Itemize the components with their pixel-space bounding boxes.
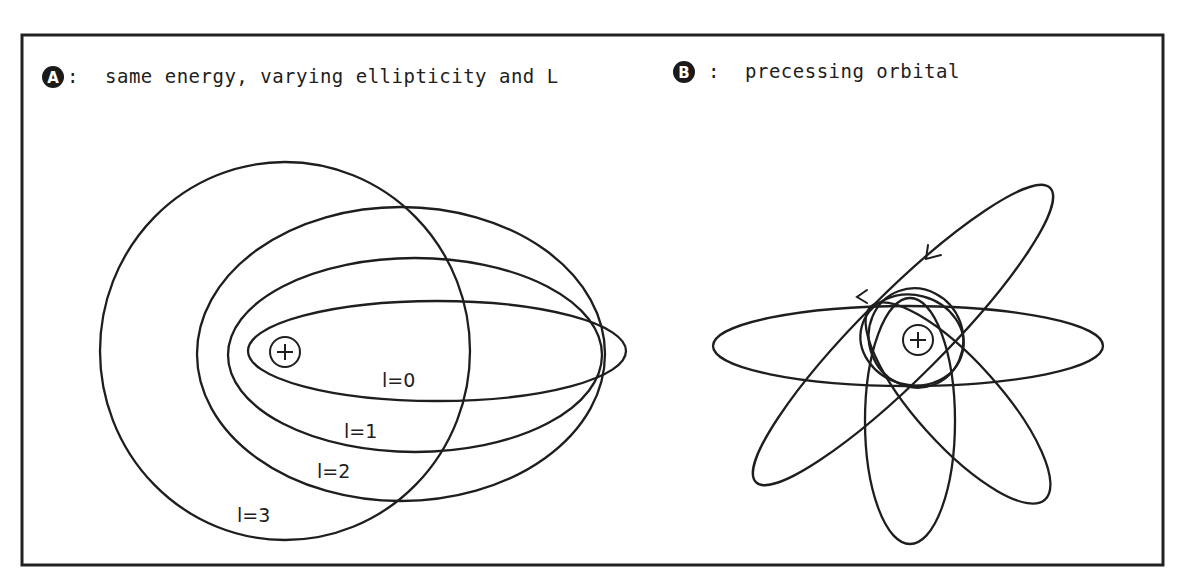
nucleus-b xyxy=(903,325,933,355)
orbit-l2 xyxy=(197,207,605,501)
panel-b-orbits xyxy=(713,158,1103,544)
orbit-label-l1: l=1 xyxy=(344,420,377,442)
precessing-orbit-3 xyxy=(865,298,955,544)
panel-a-orbits: l=0 l=1 l=2 l=3 xyxy=(100,162,626,540)
nucleus-a xyxy=(270,337,300,367)
orbit-label-l0: l=0 xyxy=(382,369,415,391)
precessing-orbit-1 xyxy=(713,306,1103,386)
panel-b-caption: precessing orbital xyxy=(745,60,960,82)
panel-a-header: A : same energy, varying ellipticity and… xyxy=(42,65,559,88)
panel-a-caption: same energy, varying ellipticity and L xyxy=(105,65,559,87)
badge-b-letter: B xyxy=(678,64,689,82)
orbit-l0 xyxy=(248,301,626,401)
panel-b-header: B : precessing orbital xyxy=(673,60,960,83)
direction-arrow-1-icon xyxy=(857,290,867,303)
badge-a-letter: A xyxy=(47,69,59,87)
orbital-diagram: A : same energy, varying ellipticity and… xyxy=(0,0,1185,588)
badge-b-separator: : xyxy=(708,60,720,82)
orbit-label-l2: l=2 xyxy=(317,460,350,482)
direction-arrow-2-icon xyxy=(926,245,941,259)
badge-a-separator: : xyxy=(67,65,79,87)
orbit-label-l3: l=3 xyxy=(237,504,270,526)
